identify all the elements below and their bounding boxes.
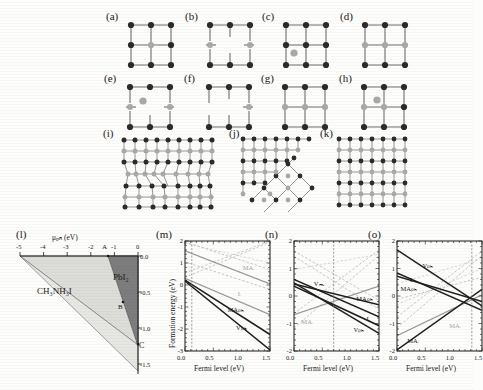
panel-letter-o: (o) — [368, 228, 381, 240]
phase-diagram-plot — [8, 240, 146, 380]
ytick-o-1: -1 — [387, 320, 395, 327]
series-V_MA — [185, 262, 270, 290]
label-v-pb: Vₚₕ — [236, 324, 247, 332]
region-ch3nh3i: CH₃NH₃I — [37, 286, 72, 296]
xtick-m-0: 0.0 — [177, 354, 185, 361]
xtick-o-3: 1.5 — [474, 354, 482, 361]
label-i-i-n: Iᵢ — [367, 315, 370, 322]
ytick-o-3: 1 — [387, 265, 395, 272]
label-ma-pb: MAₚₕ — [228, 306, 244, 314]
lattice-a — [125, 19, 177, 71]
ytick-n-2: 0 — [284, 292, 292, 299]
series-Pb_i — [185, 241, 270, 273]
panel-letter-h: (h) — [339, 72, 352, 84]
phase-xtick-3: -2 — [88, 243, 93, 250]
label-i-i: Iᵢ — [238, 290, 241, 297]
series-Pb_MA — [294, 254, 379, 269]
phase-xtick-4: -1 — [111, 243, 116, 250]
xlabel-n: Fermi level (eV) — [303, 364, 353, 373]
panel-letter-g: (g) — [261, 72, 274, 84]
xtick-o-0: 0.0 — [389, 354, 397, 361]
panel-letter-n: (n) — [265, 228, 278, 240]
xtick-o-1: 0.5 — [417, 354, 425, 361]
chart-plot-m — [184, 240, 271, 352]
ytick-n-0: -2 — [284, 347, 292, 354]
ytick-o-0: -2 — [387, 347, 395, 354]
xtick-m-3: 1.5 — [262, 354, 270, 361]
lattice-k — [334, 134, 410, 212]
xtick-n-1: 0.5 — [314, 354, 322, 361]
lattice-h — [358, 81, 410, 133]
ytick-n-1: -1 — [284, 320, 292, 327]
label-ma-pb-n: MAₚₕ — [356, 295, 372, 303]
phase-ytick-1: -0.5 — [140, 289, 150, 296]
label-i-i-o: Iᵢ — [410, 276, 413, 283]
ylabel-m: Formation energy (eV) — [168, 279, 177, 348]
xtick-n-0: 0.0 — [286, 354, 294, 361]
phase-ytick-0: 0.0 — [140, 253, 148, 260]
ytick-n-3: 1 — [284, 265, 292, 272]
lattice-d — [359, 19, 411, 71]
panel-letter-d: (d) — [340, 10, 353, 22]
panel-letter-l: (l) — [16, 228, 26, 240]
xlabel-m: Fermi level (eV) — [194, 364, 244, 373]
panel-letter-m: (m) — [156, 228, 172, 240]
point-c-label: C — [139, 341, 144, 350]
lattice-e — [124, 81, 176, 133]
series-Pb_i — [294, 250, 379, 314]
xtick-n-3: 1.5 — [371, 354, 379, 361]
xtick-n-2: 1.0 — [343, 354, 351, 361]
label-ma-i2-o: MAᵢ — [407, 337, 419, 344]
panel-letter-b: (b) — [185, 10, 198, 22]
label-ma-i-o: MAᵢ — [449, 322, 461, 329]
series-Pb_i — [397, 251, 482, 317]
phase-xtick-5: 0 — [136, 243, 139, 250]
label-ma-pb-o: MAₚₕ — [400, 285, 416, 293]
label-ma-i: MAᵢ — [243, 264, 255, 271]
panel-letter-i: (i) — [103, 127, 113, 139]
panel-letter-e: (e) — [104, 72, 116, 84]
series-MA_i — [397, 295, 482, 336]
ytick-m-5: 2 — [175, 237, 183, 244]
panel-letter-k: (k) — [320, 127, 333, 139]
xtick-o-2: 1.0 — [446, 354, 454, 361]
lattice-b — [204, 19, 256, 71]
panel-letter-c: (c) — [262, 10, 274, 22]
label-v-ma: Vₘₐ — [314, 280, 324, 288]
phase-ytick-2: -1.0 — [140, 325, 150, 332]
ytick-m-0: -3 — [175, 347, 183, 354]
panel-letter-a: (a) — [106, 10, 118, 22]
series-I_MA — [294, 251, 379, 301]
xlabel-o: Fermi level (eV) — [406, 364, 456, 373]
point-b-label: B — [118, 303, 123, 311]
point-a-label: A — [102, 243, 107, 251]
lattice-f — [203, 81, 255, 133]
ytick-o-4: 2 — [387, 237, 395, 244]
lattice-j — [238, 134, 316, 212]
panel-letter-f: (f) — [184, 72, 195, 84]
phase-ytick-3: -1.5 — [140, 361, 150, 368]
label-ma-i-n: MAᵢ — [301, 318, 313, 325]
ytick-n-4: 2 — [284, 237, 292, 244]
label-v-pb-o: Vₚₕ — [423, 262, 434, 270]
phase-xtick-0: -5 — [16, 243, 21, 250]
region-pbi2: PbI₂ — [113, 272, 129, 282]
lattice-g — [279, 81, 331, 133]
xtick-m-1: 0.5 — [205, 354, 213, 361]
xtick-m-2: 1.0 — [234, 354, 242, 361]
label-v-pb-n: Vₚₕ — [354, 326, 365, 334]
lattice-c — [280, 19, 332, 71]
chart-plot-o — [396, 240, 483, 352]
ytick-o-2: 0 — [387, 292, 395, 299]
phase-xtick-1: -4 — [40, 243, 45, 250]
phase-xtick-2: -3 — [63, 243, 68, 250]
lattice-i — [118, 134, 218, 212]
series-V_Pb — [185, 281, 270, 350]
ytick-m-4: 1 — [175, 259, 183, 266]
